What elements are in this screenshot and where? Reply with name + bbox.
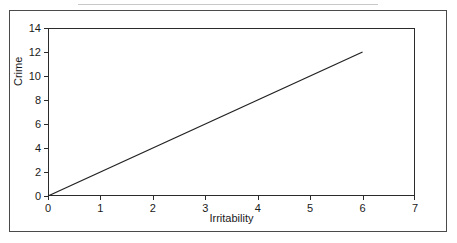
y-tick-label: 0 (35, 191, 41, 202)
y-tick-label: 12 (29, 47, 41, 58)
y-tick-mark (44, 124, 48, 125)
y-tick-mark (44, 28, 48, 29)
x-tick-mark (414, 196, 415, 200)
y-axis-title: Crime (13, 57, 24, 86)
x-tick-mark (205, 196, 206, 200)
x-tick-mark (363, 196, 364, 200)
x-axis-title: Irritability (48, 213, 415, 224)
x-tick-mark (100, 196, 101, 200)
x-tick-mark (48, 196, 49, 200)
y-tick-mark (44, 172, 48, 173)
data-line (48, 52, 363, 196)
y-tick-mark (44, 100, 48, 101)
y-tick-label: 4 (35, 143, 41, 154)
y-tick-mark (44, 148, 48, 149)
scan-artifact (78, 4, 378, 5)
data-line-series (48, 28, 415, 196)
plot-area: 02468101214 01234567 (48, 28, 415, 196)
x-tick-mark (310, 196, 311, 200)
y-tick-label: 8 (35, 95, 41, 106)
x-tick-mark (258, 196, 259, 200)
y-tick-label: 2 (35, 167, 41, 178)
y-tick-mark (44, 76, 48, 77)
y-tick-label: 6 (35, 119, 41, 130)
y-tick-mark (44, 52, 48, 53)
x-tick-mark (153, 196, 154, 200)
y-tick-label: 14 (29, 23, 41, 34)
y-tick-label: 10 (29, 71, 41, 82)
